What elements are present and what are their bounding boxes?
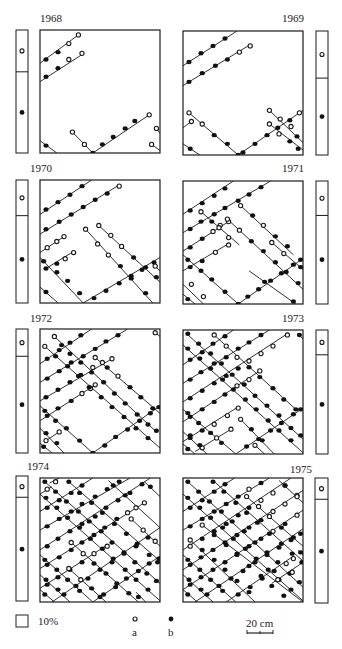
stolon-line	[40, 590, 54, 602]
filled-node-icon	[231, 537, 236, 541]
filled-node-icon	[76, 374, 81, 378]
filled-node-icon	[45, 376, 50, 380]
open-node-icon	[227, 235, 231, 239]
filled-node-icon	[287, 139, 292, 143]
filled-node-icon	[101, 592, 106, 596]
filled-node-icon	[101, 380, 106, 384]
open-node-icon	[188, 544, 192, 548]
open-node-icon	[63, 257, 67, 261]
open-node-icon	[225, 217, 229, 221]
filled-node-icon	[55, 50, 60, 54]
filled-node-icon	[145, 535, 150, 539]
filled-node-icon	[287, 118, 292, 122]
filled-node-icon	[208, 366, 213, 370]
filled-node-icon	[57, 517, 62, 521]
filled-node-icon	[55, 66, 60, 70]
filled-node-icon	[200, 498, 205, 502]
open-circle-icon	[20, 485, 24, 489]
filled-node-icon	[224, 502, 229, 506]
filled-node-icon	[185, 297, 190, 301]
filled-node-icon	[89, 501, 94, 505]
open-node-icon	[62, 234, 66, 238]
filled-node-icon	[55, 587, 60, 591]
filled-node-icon	[264, 403, 269, 407]
filled-node-icon	[188, 563, 193, 567]
filled-node-icon	[45, 563, 50, 567]
stolon-line	[40, 287, 58, 303]
open-node-icon	[67, 41, 71, 45]
filled-node-icon	[185, 411, 190, 415]
filled-node-icon	[45, 524, 50, 528]
filled-node-icon	[154, 275, 159, 279]
filled-node-icon	[43, 577, 48, 581]
panel-1975: 1975	[183, 463, 328, 603]
filled-node-icon	[250, 213, 255, 217]
filled-node-icon	[275, 560, 280, 564]
stolon-line	[93, 115, 149, 153]
filled-node-icon	[296, 281, 301, 285]
filled-node-icon	[111, 556, 116, 560]
filled-node-icon	[123, 126, 128, 130]
filled-node-icon	[55, 537, 60, 541]
filled-node-icon	[124, 576, 129, 580]
filled-node-icon	[87, 385, 92, 389]
open-node-icon	[267, 514, 271, 518]
filled-node-icon	[212, 361, 217, 365]
filled-node-icon	[188, 147, 193, 151]
filled-node-icon	[133, 426, 138, 430]
open-circle-icon	[320, 340, 324, 344]
year-label: 1973	[282, 312, 305, 324]
stolon-lines	[40, 33, 160, 155]
filled-node-icon	[148, 484, 153, 488]
filled-node-icon	[222, 186, 227, 190]
filled-node-icon	[123, 568, 128, 572]
open-node-icon	[282, 251, 286, 255]
filled-node-icon	[133, 577, 138, 581]
filled-node-icon	[185, 496, 190, 500]
plot-square	[40, 30, 160, 153]
panels: 19681969197019711972197319741975	[16, 12, 328, 603]
filled-node-icon	[57, 220, 62, 224]
filled-node-icon	[78, 360, 83, 364]
filled-node-icon	[99, 529, 104, 533]
filled-node-icon	[89, 370, 94, 374]
filled-node-icon	[213, 64, 218, 68]
stolon-lines	[183, 31, 303, 157]
stolon-line	[144, 482, 160, 497]
stolon-line	[46, 251, 74, 268]
filled-node-icon	[257, 375, 262, 379]
filled-node-icon	[115, 333, 120, 337]
open-node-icon	[93, 383, 97, 387]
stolon-line	[69, 482, 160, 561]
filled-node-icon	[246, 365, 251, 369]
filled-node-icon	[99, 395, 104, 399]
filled-node-icon	[196, 489, 201, 493]
open-node-icon	[295, 495, 299, 499]
filled-node-icon	[285, 244, 290, 248]
open-node-icon	[211, 229, 215, 233]
open-node-icon	[235, 384, 239, 388]
filled-node-icon	[209, 219, 214, 223]
filled-node-icon	[279, 421, 284, 425]
filled-node-icon	[42, 480, 47, 484]
filled-node-icon	[212, 133, 217, 137]
filled-node-icon	[240, 569, 245, 573]
filled-node-icon	[93, 494, 98, 498]
open-node-icon	[117, 184, 121, 188]
stolon-line	[40, 545, 107, 588]
filled-node-icon	[208, 351, 213, 355]
filled-node-icon	[254, 407, 259, 411]
filled-node-icon	[222, 36, 227, 40]
filled-node-icon	[198, 51, 203, 55]
filled-node-icon	[276, 413, 281, 417]
plot-square	[183, 181, 303, 304]
open-node-icon	[200, 523, 204, 527]
filled-node-icon	[269, 584, 274, 588]
panel-1974: 1974	[16, 460, 161, 602]
open-node-icon	[235, 355, 239, 359]
stolon-lines	[183, 330, 303, 454]
filled-node-icon	[147, 553, 152, 557]
filled-node-icon	[136, 595, 141, 599]
filled-node-icon	[105, 191, 110, 195]
filled-node-icon	[77, 291, 82, 295]
